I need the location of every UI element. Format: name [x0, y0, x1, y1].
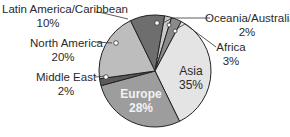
- label-europe: Europe 28%: [116, 87, 166, 115]
- label-pct: 10%: [2, 16, 94, 30]
- label-pct: 2%: [205, 25, 289, 39]
- marker-north-america: [114, 41, 119, 46]
- label-pct: 3%: [214, 54, 248, 68]
- label-name: Europe: [116, 87, 166, 101]
- label-latin-america: Latin America/Caribbean 10%: [2, 2, 94, 30]
- label-name: Latin America/Caribbean: [2, 2, 94, 16]
- marker-latin-america: [155, 21, 160, 26]
- label-name: Oceania/Australia: [205, 11, 289, 25]
- label-name: Africa: [214, 40, 248, 54]
- marker-oceania: [167, 23, 171, 27]
- marker-middle-east: [104, 75, 109, 80]
- label-africa: Africa 3%: [214, 40, 248, 68]
- label-name: Asia: [175, 64, 207, 78]
- label-name: North America: [30, 36, 96, 50]
- label-oceania: Oceania/Australia 2%: [205, 11, 289, 39]
- label-pct: 20%: [30, 50, 96, 64]
- label-pct: 35%: [175, 78, 207, 92]
- label-middle-east: Middle East 2%: [36, 70, 96, 98]
- label-asia: Asia 35%: [175, 64, 207, 92]
- label-name: Middle East: [36, 70, 96, 84]
- marker-africa: [173, 29, 177, 33]
- label-pct: 28%: [116, 101, 166, 115]
- label-north-america: North America 20%: [30, 36, 96, 64]
- label-pct: 2%: [36, 84, 96, 98]
